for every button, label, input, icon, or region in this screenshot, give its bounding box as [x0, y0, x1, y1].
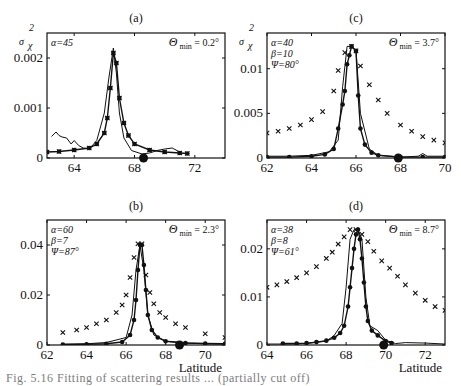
x-tick-label: 68	[159, 347, 172, 362]
param-annotation: β=10	[270, 48, 293, 59]
plot-frame	[47, 33, 225, 158]
panel-title: (b)	[129, 199, 143, 213]
theta-min-annotation: Θ min = 0.2°	[169, 35, 219, 51]
theta-min-marker	[175, 341, 184, 350]
theta-min-marker	[394, 154, 403, 163]
param-annotation: α=40	[271, 37, 293, 48]
param-annotation: Ψ=61°	[271, 246, 299, 257]
y-axis-label: σ	[19, 36, 25, 47]
panel-title: (d)	[349, 199, 363, 213]
x-tick-label: 64	[68, 160, 82, 175]
figure-canvas: (a)64687200.0010.002σχ2α=45Θ min = 0.2°(…	[0, 0, 461, 386]
y-tick-label: 0.01	[240, 289, 263, 304]
param-annotation: α=60	[51, 224, 73, 235]
x-tick-label: 66	[350, 160, 364, 175]
x-tick-label: 68	[128, 160, 141, 175]
y-tick-label: 0	[257, 337, 264, 352]
panel-title: (c)	[349, 11, 362, 25]
svg-text:2: 2	[249, 22, 254, 33]
y-tick-label: 0	[37, 337, 44, 352]
x-tick-label: 68	[340, 347, 353, 362]
x-axis-label: Latitude	[399, 360, 443, 375]
param-annotation: Ψ=80°	[271, 59, 299, 70]
theta-min-marker	[379, 341, 388, 350]
param-annotation: β=7	[50, 235, 69, 246]
y-tick-label: 0.02	[20, 287, 43, 302]
dot-marker-series	[61, 243, 228, 347]
x-tick-label: 72	[188, 160, 201, 175]
y-tick-label: 0.04	[20, 237, 43, 252]
dot-marker-series	[45, 51, 190, 156]
theta-min-marker	[139, 154, 148, 163]
x-tick-label: 70	[439, 160, 452, 175]
param-annotation: α=45	[51, 37, 73, 48]
param-annotation: Ψ=87°	[51, 246, 79, 257]
y-tick-label: 0.02	[240, 241, 263, 256]
svg-text:2: 2	[29, 22, 34, 33]
plot-frame	[47, 220, 225, 345]
panel-a: (a)64687200.0010.002σχ2α=45Θ min = 0.2°	[14, 11, 225, 175]
y-tick-label: 0	[37, 150, 44, 165]
x-tick-label: 64	[305, 160, 319, 175]
panel-d: (d)646668707200.010.02Latitudeα=38β=8Ψ=6…	[240, 199, 447, 375]
y-tick-label: 0.001	[14, 100, 43, 115]
param-annotation: α=38	[271, 224, 293, 235]
theta-min-annotation: Θ min = 3.7°	[389, 35, 439, 51]
panel-b: (b)626466687000.020.04Latitudeα=60β=7Ψ=8…	[20, 199, 227, 375]
y-tick-label: 0	[257, 150, 264, 165]
x-tick-label: 70	[379, 347, 392, 362]
theta-min-annotation: Θ min = 2.3°	[169, 222, 219, 238]
theta-min-annotation: Θ min = 8.7°	[389, 222, 439, 238]
param-annotation: β=8	[270, 235, 288, 246]
x-tick-label: 66	[120, 347, 134, 362]
x-tick-label: 64	[80, 347, 94, 362]
figure-caption: Fig. 5.16 Fitting of scattering results …	[6, 371, 310, 386]
y-tick-label: 0.01	[240, 61, 263, 76]
svg-text:χ: χ	[247, 40, 253, 51]
x-tick-label: 68	[394, 160, 407, 175]
y-tick-label: 0.005	[234, 105, 263, 120]
y-axis-label: σ	[239, 36, 245, 47]
svg-text:χ: χ	[27, 40, 33, 51]
panel-title: (a)	[129, 11, 142, 25]
x-marker-series	[265, 227, 447, 312]
panel-c: (c)626466687000.0050.01σχ2α=40β=10Ψ=80°Θ…	[234, 11, 452, 175]
x-tick-label: 66	[300, 347, 314, 362]
y-tick-label: 0.002	[14, 50, 43, 65]
